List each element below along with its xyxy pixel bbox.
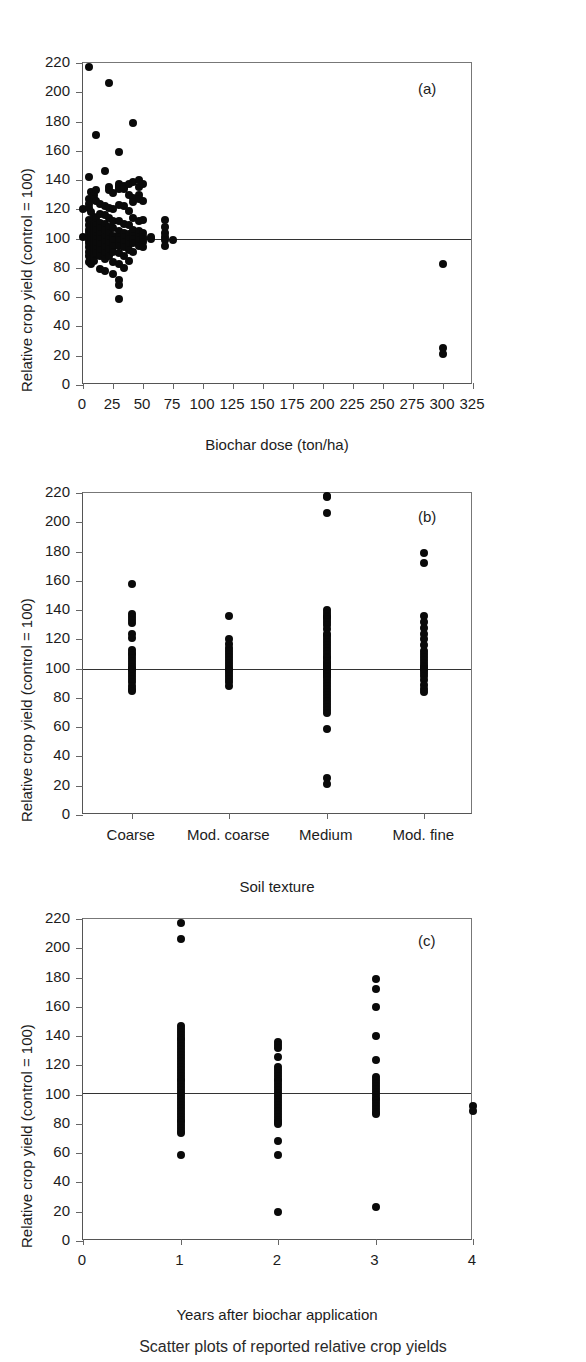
- x-axis-tick: [83, 383, 84, 389]
- data-point: [372, 1003, 380, 1011]
- y-axis-tick-label: 160: [24, 572, 70, 587]
- x-axis-tick: [383, 383, 384, 389]
- data-point: [372, 1056, 380, 1064]
- data-point: [225, 612, 233, 620]
- y-axis-tick-label: 100: [24, 1086, 70, 1101]
- data-point: [105, 79, 113, 87]
- y-axis-tick: [76, 1095, 83, 1096]
- y-axis-tick: [76, 610, 83, 611]
- y-axis-tick: [76, 1241, 83, 1242]
- data-point: [323, 725, 331, 733]
- x-axis-tick: [473, 383, 474, 389]
- data-point: [372, 1203, 380, 1211]
- x-axis-tick: [413, 383, 414, 389]
- data-point: [372, 985, 380, 993]
- y-axis-tick-label: 40: [24, 747, 70, 762]
- data-point: [323, 509, 331, 517]
- x-axis-tick: [203, 383, 204, 389]
- data-point: [439, 350, 447, 358]
- data-point: [177, 1129, 185, 1137]
- data-point: [139, 216, 147, 224]
- y-axis-tick-label: 120: [24, 630, 70, 645]
- y-axis-tick-label: 0: [24, 806, 70, 821]
- reference-line: [83, 669, 471, 670]
- data-point: [225, 682, 233, 690]
- data-point: [177, 919, 185, 927]
- x-axis-tick-label: 1: [155, 1252, 205, 1267]
- y-axis-tick: [76, 92, 83, 93]
- y-axis-tick-label: 20: [24, 347, 70, 362]
- y-axis-tick: [76, 522, 83, 523]
- panel-a-y-axis-title: Relative crop yield (control = 100): [18, 62, 35, 392]
- data-point: [274, 1120, 282, 1128]
- data-point: [92, 131, 100, 139]
- data-point: [372, 1032, 380, 1040]
- data-point: [101, 167, 109, 175]
- y-axis-tick-label: 140: [24, 1027, 70, 1042]
- data-point: [177, 1151, 185, 1159]
- data-point: [420, 688, 428, 696]
- y-axis-tick-label: 0: [24, 376, 70, 391]
- y-axis-tick-label: 0: [24, 1232, 70, 1247]
- panel-b-y-axis-title: Relative crop yield (control = 100): [18, 492, 35, 822]
- y-axis-tick: [76, 1182, 83, 1183]
- x-axis-category-label: Mod. fine: [373, 827, 473, 842]
- x-axis-tick: [323, 383, 324, 389]
- data-point: [129, 119, 137, 127]
- y-axis-tick-label: 80: [24, 1115, 70, 1130]
- x-axis-tick-label: 4: [447, 1252, 497, 1267]
- data-point: [128, 619, 136, 627]
- panel-c-label: (c): [418, 932, 436, 949]
- y-axis-tick: [76, 385, 83, 386]
- y-axis-tick-label: 40: [24, 1173, 70, 1188]
- x-axis-category-label: Medium: [276, 827, 376, 842]
- y-axis-tick-label: 200: [24, 83, 70, 98]
- x-axis-category-label: Coarse: [81, 827, 181, 842]
- x-axis-tick: [229, 813, 230, 819]
- y-axis-tick-label: 180: [24, 543, 70, 558]
- y-axis-tick-label: 200: [24, 939, 70, 954]
- panel-c-plot-area: [82, 918, 472, 1240]
- x-axis-tick: [424, 813, 425, 819]
- data-point: [372, 975, 380, 983]
- x-axis-tick: [327, 813, 328, 819]
- y-axis-tick: [76, 786, 83, 787]
- data-point: [420, 559, 428, 567]
- y-axis-tick-label: 140: [24, 601, 70, 616]
- y-axis-tick: [76, 727, 83, 728]
- y-axis-tick: [76, 948, 83, 949]
- x-axis-tick-label: 325: [447, 396, 497, 411]
- y-axis-tick: [76, 1212, 83, 1213]
- x-axis-category-label: Mod. coarse: [178, 827, 278, 842]
- y-axis-tick-label: 40: [24, 317, 70, 332]
- panel-b-label: (b): [418, 508, 436, 525]
- data-point: [169, 236, 177, 244]
- x-axis-tick: [132, 813, 133, 819]
- data-point: [161, 242, 169, 250]
- y-axis-tick-label: 60: [24, 718, 70, 733]
- y-axis-tick-label: 220: [24, 54, 70, 69]
- y-axis-tick: [76, 978, 83, 979]
- x-axis-tick: [473, 1239, 474, 1245]
- y-axis-tick-label: 160: [24, 142, 70, 157]
- y-axis-tick: [76, 919, 83, 920]
- x-axis-tick: [173, 383, 174, 389]
- x-axis-tick-label: 2: [252, 1252, 302, 1267]
- y-axis-tick: [76, 639, 83, 640]
- y-axis-tick: [76, 356, 83, 357]
- panel-b: Relative crop yield (control = 100) (b) …: [0, 440, 586, 900]
- panel-a-plot-area: [82, 62, 472, 384]
- y-axis-tick-label: 80: [24, 259, 70, 274]
- data-point: [372, 1110, 380, 1118]
- data-point: [139, 197, 147, 205]
- data-point: [128, 687, 136, 695]
- y-axis-tick: [76, 326, 83, 327]
- panel-c-x-axis-title: Years after biochar application: [82, 1306, 472, 1323]
- x-axis-tick: [113, 383, 114, 389]
- y-axis-tick: [76, 122, 83, 123]
- data-point: [101, 267, 109, 275]
- y-axis-tick: [76, 552, 83, 553]
- data-point: [177, 935, 185, 943]
- x-axis-tick-label: 0: [57, 1252, 107, 1267]
- panel-c: Relative crop yield (control = 100) (c) …: [0, 870, 586, 1340]
